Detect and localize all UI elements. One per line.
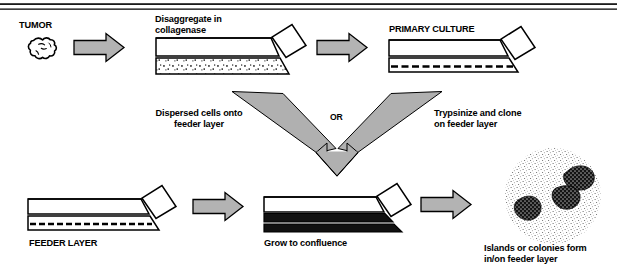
arrow-right-icon-4	[421, 191, 471, 219]
label-feeder-layer: FEEDER LAYER	[29, 238, 97, 249]
culture-flask-icon-feeder	[28, 186, 176, 231]
arrow-v-merge-down-icon	[232, 91, 442, 176]
arrow-right-icon-2	[317, 34, 367, 62]
label-disaggregate: Disaggregate in collagenase	[155, 14, 222, 36]
top-rule-lower	[0, 8, 617, 10]
label-or: OR	[330, 112, 343, 122]
label-trypsinize: Trypsinize and clone on feeder layer	[434, 108, 521, 130]
label-islands-colonies: Islands or colonies form in/on feeder la…	[484, 243, 587, 265]
label-grow-to-confluence: Grow to confluence	[264, 238, 347, 249]
colony-dish-icon	[505, 148, 601, 244]
top-rule-upper	[0, 3, 617, 5]
arrow-right-icon-3	[193, 193, 243, 221]
top-rule-group	[0, 3, 617, 10]
label-tumor: TUMOR	[19, 20, 52, 31]
figure-canvas: TUMOR Disaggregate in collagenase PRIMAR…	[0, 0, 617, 272]
label-dispersed-cells: Dispersed cells onto feeder layer	[140, 108, 258, 130]
arrow-right-icon-1	[74, 34, 124, 62]
culture-flask-icon-confluent	[264, 184, 411, 233]
label-primary-culture: PRIMARY CULTURE	[389, 24, 474, 35]
tumor-blob-icon	[28, 38, 56, 59]
diagram-svg	[0, 0, 617, 272]
